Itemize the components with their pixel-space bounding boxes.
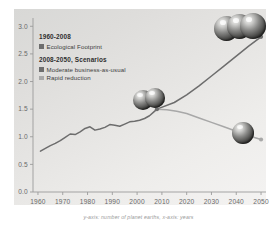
x-axis-tick-label: 2020: [179, 198, 195, 205]
legend-swatch-historical: [39, 44, 44, 49]
x-axis-tick-label: 1970: [55, 198, 71, 205]
rapid-reduction-endpoint: [259, 137, 263, 141]
y-axis-tick-label: 1.0: [18, 133, 28, 140]
x-axis-tick-label: 2000: [129, 198, 145, 205]
earth-globe-half-icon: [145, 88, 165, 108]
y-axis-tick-label: 1.5: [18, 105, 28, 112]
x-axis-tick-label: 2040: [229, 198, 245, 205]
x-axis-tick-label: 1960: [30, 198, 46, 205]
y-axis-tick-label: 2.0: [18, 78, 28, 85]
earth-globe-icon: [232, 122, 254, 144]
legend-swatch-business-as-usual: [39, 67, 44, 72]
legend-label-business-as-usual: Moderate business-as-usual: [47, 66, 126, 74]
one-earth-marker: [232, 122, 256, 146]
legend-item-ecological-footprint[interactable]: Ecological Footprint: [39, 43, 149, 51]
y-axis-tick-label: 0.5: [18, 161, 28, 168]
legend-label-rapid-reduction: Rapid reduction: [47, 74, 91, 82]
legend-section-title-scenarios: 2008-2050, Scenarios: [39, 56, 149, 64]
one-and-half-earths-marker: [133, 88, 167, 114]
x-axis-tick-label: 2050: [253, 198, 269, 205]
three-earths-marker: [214, 13, 270, 45]
y-axis-tick-label: 3.0: [18, 23, 28, 30]
legend-label-ecological-footprint: Ecological Footprint: [47, 43, 103, 51]
series-line: [40, 109, 157, 151]
y-axis-tick-label: 2.5: [18, 50, 28, 57]
x-axis-tick-label: 1980: [80, 198, 96, 205]
chart-caption: y-axis: number of planet earths, x-axis:…: [0, 214, 277, 220]
chart-legend: 1960-2008 Ecological Footprint 2008-2050…: [39, 33, 149, 83]
earth-globe-icon: [240, 13, 266, 39]
legend-item-business-as-usual[interactable]: Moderate business-as-usual: [39, 66, 149, 74]
y-axis-ticks: 0.00.51.01.52.02.53.0: [18, 23, 33, 196]
legend-item-rapid-reduction[interactable]: Rapid reduction: [39, 74, 149, 82]
legend-section-title-historical: 1960-2008: [39, 33, 149, 41]
x-axis-tick-label: 2030: [204, 198, 220, 205]
series-line: [157, 37, 261, 109]
y-axis-tick-label: 0.0: [18, 188, 28, 195]
ecological-footprint-chart: 0.00.51.01.52.02.53.0 196019701980199020…: [0, 0, 277, 232]
x-axis-ticks: 1960197019801990200020102020203020402050: [30, 192, 269, 205]
x-axis-tick-label: 1990: [105, 198, 121, 205]
x-axis-tick-label: 2010: [154, 198, 170, 205]
legend-swatch-rapid-reduction: [39, 76, 44, 81]
